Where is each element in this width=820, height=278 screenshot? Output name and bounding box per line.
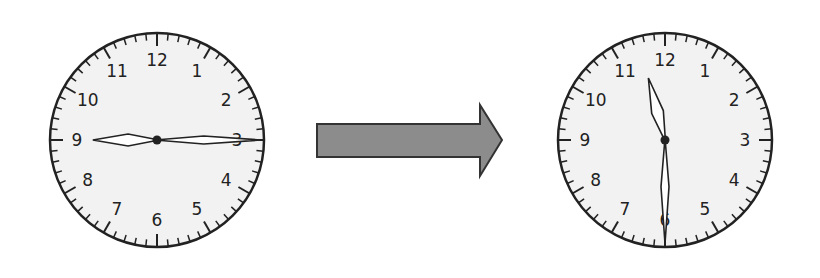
tick-mark (764, 150, 771, 151)
clock-numeral: 10 (77, 90, 99, 110)
clock-center-pin (661, 136, 670, 145)
clock-numeral: 7 (620, 199, 631, 219)
clock-numeral: 5 (192, 199, 203, 219)
tick-mark (256, 150, 263, 151)
clock-numeral: 12 (654, 50, 676, 70)
tick-mark (675, 34, 676, 41)
tick-mark (51, 129, 58, 130)
clock-numeral: 11 (614, 61, 636, 81)
clock-numeral: 4 (729, 170, 740, 190)
tick-mark (167, 239, 168, 246)
tick-mark (559, 129, 566, 130)
tick-mark (146, 34, 147, 41)
clock-numeral: 12 (146, 50, 168, 70)
clock-numeral: 1 (192, 61, 203, 81)
right-arrow-icon (317, 105, 502, 176)
tick-mark (256, 129, 263, 130)
clock-numeral: 1 (700, 61, 711, 81)
diagram-canvas: 121234567891011 121234567891011 (0, 0, 820, 278)
tick-mark (654, 34, 655, 41)
clock-numeral: 2 (221, 90, 232, 110)
tick-mark (764, 129, 771, 130)
clock-numeral: 7 (112, 199, 123, 219)
clock-numeral: 2 (729, 90, 740, 110)
diagram: 121234567891011 121234567891011 (0, 0, 820, 278)
clock-numeral: 10 (585, 90, 607, 110)
clock-numeral: 4 (221, 170, 232, 190)
clock-numeral: 3 (740, 130, 751, 150)
tick-mark (146, 239, 147, 246)
tick-mark (654, 239, 655, 246)
clock-numeral: 8 (590, 170, 601, 190)
tick-mark (51, 150, 58, 151)
end-clock: 121234567891011 (558, 33, 772, 247)
clock-center-pin (153, 136, 162, 145)
tick-mark (559, 150, 566, 151)
tick-mark (167, 34, 168, 41)
clock-numeral: 9 (72, 130, 83, 150)
clock-numeral: 5 (700, 199, 711, 219)
clock-numeral: 9 (580, 130, 591, 150)
clock-numeral: 6 (152, 210, 163, 230)
clock-numeral: 11 (106, 61, 128, 81)
start-clock: 121234567891011 (50, 33, 264, 247)
tick-mark (675, 239, 676, 246)
clock-numeral: 8 (82, 170, 93, 190)
